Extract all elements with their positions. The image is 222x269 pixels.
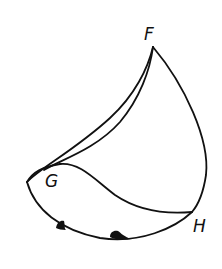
right-edge <box>153 47 206 212</box>
blob-marker-2 <box>110 231 132 240</box>
label-f: F <box>144 24 154 44</box>
middle-curve <box>60 164 192 213</box>
outer-upper-edge <box>27 47 153 182</box>
label-g: G <box>45 171 58 191</box>
diagram-canvas: F G H <box>0 0 222 269</box>
inner-upper-edge <box>44 47 153 170</box>
label-h: H <box>193 216 206 236</box>
